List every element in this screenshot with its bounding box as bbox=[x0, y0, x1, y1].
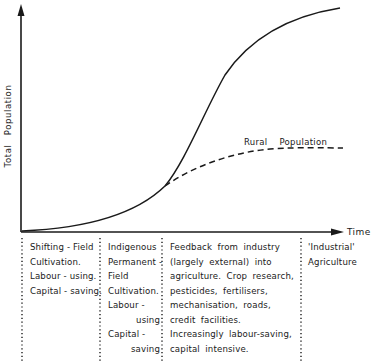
stage-text-line: Agriculture bbox=[308, 255, 374, 270]
y-axis-arrowhead-icon bbox=[18, 4, 25, 16]
stage-text-line: Field bbox=[108, 269, 160, 284]
stage-text-line: saving bbox=[108, 342, 160, 357]
stage-shifting-cultivation: Shifting - Field Cultivation. Labour - u… bbox=[30, 240, 100, 298]
stage-text-line: capital intensive. bbox=[170, 342, 298, 357]
x-axis-arrowhead-icon bbox=[331, 229, 344, 236]
stage-text-line: Shifting - Field bbox=[30, 240, 100, 255]
stage-text-line: (largely external) into bbox=[170, 255, 298, 270]
x-axis-label: Time bbox=[347, 227, 371, 237]
rural-population-label: Rural Population bbox=[244, 137, 327, 147]
stage-text-line: using bbox=[108, 313, 160, 328]
y-axis-label: Total Population bbox=[3, 81, 15, 171]
stage-text-line: agriculture. Crop research, bbox=[170, 269, 298, 284]
stage-text-line: 'Industrial' bbox=[308, 240, 374, 255]
stage-text-line: Labour - bbox=[108, 298, 160, 313]
stage-indigenous-permanent: Indigenous Permanent - Field Cultivation… bbox=[108, 240, 160, 356]
total-population-curve bbox=[22, 8, 340, 231]
stage-text-line: credit facilities. bbox=[170, 313, 298, 328]
stage-text-line: Permanent - bbox=[108, 255, 160, 270]
stage-text-line: Indigenous bbox=[108, 240, 160, 255]
stage-text-line: Labour - using. bbox=[30, 269, 100, 284]
stage-text-line: Capital - bbox=[108, 327, 160, 342]
stage-text-line: pesticides, fertilisers, bbox=[170, 284, 298, 299]
stage-text-line: Increasingly labour-saving, bbox=[170, 327, 298, 342]
stage-text-line: Cultivation. bbox=[108, 284, 160, 299]
stage-industrial-agriculture: 'Industrial' Agriculture bbox=[308, 240, 374, 269]
stage-text-line: Capital - saving. bbox=[30, 284, 100, 299]
stage-text-line: Feedback from industry bbox=[170, 240, 298, 255]
rural-population-curve bbox=[165, 148, 343, 186]
stage-text-line: mechanisation, roads, bbox=[170, 298, 298, 313]
stage-industry-feedback: Feedback from industry (largely external… bbox=[170, 240, 298, 356]
stage-text-line: Cultivation. bbox=[30, 255, 100, 270]
